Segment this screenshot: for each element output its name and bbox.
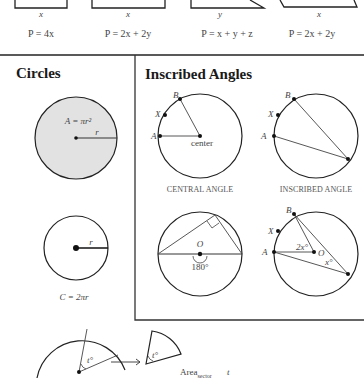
parallelogram-perimeter-formula: P = 2x + 2y — [289, 28, 335, 39]
parallelogram-side-label: x — [316, 9, 321, 19]
triangle-figure — [191, 0, 264, 8]
central-point-a: A — [150, 131, 157, 141]
central-point-b: B — [173, 90, 179, 100]
area-formula: A = πr² — [64, 116, 92, 126]
circumference-center-dot — [73, 245, 79, 251]
inscribed-angle-figure — [272, 94, 358, 178]
inscribed-angles-heading: Inscribed Angles — [145, 66, 252, 82]
rectangle-perimeter-formula: P = 2x + 2y — [105, 28, 151, 39]
sector-arrow-icon — [111, 359, 140, 365]
area-center-dot — [74, 136, 78, 140]
inscribed-point-b: B — [285, 90, 291, 100]
relation-point-a: A — [261, 247, 268, 257]
semicircle-center-label: O — [197, 239, 204, 249]
inscribed-angle-caption: INSCRIBED ANGLE — [280, 185, 352, 194]
relation-point-b: B — [286, 205, 292, 215]
semicircle-angle-label: 180° — [191, 262, 209, 272]
geometry-reference-page: x x y x P = 4x P = 2x + 2y P = x + y + z… — [0, 0, 364, 378]
inscribed-point-x: X — [267, 109, 274, 119]
square-side-label: x — [38, 9, 43, 19]
relation-central-angle: 2x° — [296, 242, 308, 252]
rectangle-figure — [92, 0, 165, 8]
central-angle-caption: CENTRAL ANGLE — [167, 185, 234, 194]
circumference-radius-label: r — [89, 237, 93, 247]
triangle-perimeter-formula: P = x + y + z — [201, 28, 253, 39]
sector-area-label: Areasector — [180, 367, 212, 378]
parallelogram-figure — [280, 0, 357, 7]
relation-point-x: X — [267, 226, 274, 236]
rectangle-side-label: x — [125, 9, 130, 19]
central-angle-figure — [158, 94, 242, 178]
circles-heading: Circles — [16, 65, 61, 81]
relation-center-label: O — [318, 248, 325, 258]
sector-angle-label: t° — [87, 355, 94, 365]
semicircle-angle-figure — [158, 212, 242, 296]
sector-circle-figure — [37, 329, 125, 378]
angle-relation-figure — [272, 212, 358, 296]
inscribed-point-a: A — [260, 131, 267, 141]
relation-inscribed-angle: x° — [324, 257, 333, 267]
square-figure — [15, 0, 67, 8]
sector-area-trailing: t — [227, 367, 230, 377]
central-center-label: center — [191, 138, 213, 148]
central-point-x: X — [154, 109, 161, 119]
triangle-side-label: y — [217, 9, 222, 19]
circumference-formula: C = 2πr — [59, 292, 89, 302]
area-radius-label: r — [95, 127, 99, 137]
sector-piece-angle-label: t° — [152, 350, 159, 360]
square-perimeter-formula: P = 4x — [28, 28, 54, 39]
